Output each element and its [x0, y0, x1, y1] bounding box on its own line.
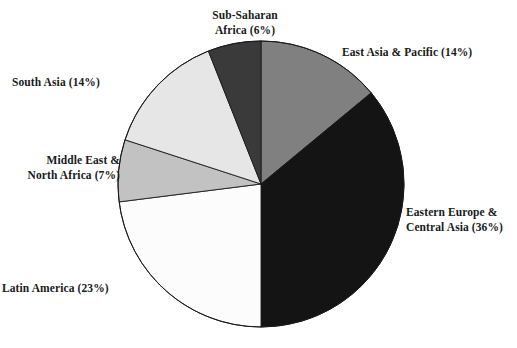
- slice-label-latin-america: Latin America (23%): [2, 281, 158, 296]
- slice-label-south-asia: South Asia (14%): [12, 75, 160, 90]
- slice-label-eastern-europe-central-asia: Eastern Europe & Central Asia (36%): [406, 205, 517, 234]
- slice-label-east-asia-pacific: East Asia & Pacific (14%): [342, 45, 512, 60]
- pie-slice-latin-america[interactable]: [119, 184, 261, 327]
- pie-slices-group: [118, 41, 404, 327]
- pie-chart-figure: Sub-Saharan Africa (6%) East Asia & Paci…: [0, 0, 517, 348]
- slice-label-sub-saharan-africa: Sub-Saharan Africa (6%): [186, 8, 304, 37]
- slice-label-middle-east-north-africa: Middle East & North Africa (7%): [2, 153, 120, 182]
